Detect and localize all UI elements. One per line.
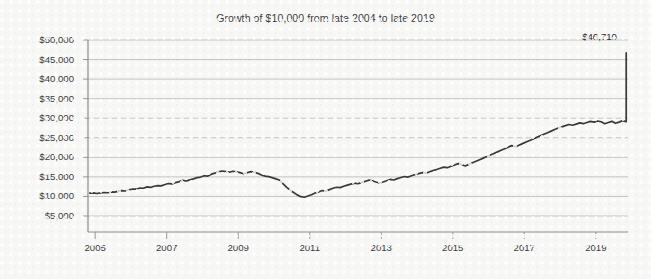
chart-container: Growth of $10,000 from late 2004 to late…	[0, 0, 651, 279]
x-axis-label: 2005	[75, 242, 115, 253]
data-series-line	[90, 53, 626, 197]
y-axis-label: $15,000	[12, 171, 74, 182]
y-axis-label: $35,000	[12, 93, 74, 104]
x-axis-label: 2009	[218, 242, 258, 253]
y-axis-label: $30,000	[12, 112, 74, 123]
x-axis-label: 2011	[290, 242, 330, 253]
y-axis-label: $50,000	[12, 34, 74, 45]
y-axis-label: $5,000	[12, 210, 74, 221]
y-axis-label: $20,000	[12, 151, 74, 162]
chart-plot-area	[0, 0, 651, 279]
x-axis-label: 2015	[433, 242, 473, 253]
y-axis-label: $40,000	[12, 73, 74, 84]
x-axis-label: 2017	[504, 242, 544, 253]
y-axis-label: $25,000	[12, 132, 74, 143]
y-axis-label: $10,000	[12, 190, 74, 201]
end-value-annotation: $46,710	[582, 31, 617, 42]
x-axis-label: 2013	[361, 242, 401, 253]
x-axis-label: 2007	[147, 242, 187, 253]
x-axis-label: 2019	[576, 242, 616, 253]
y-axis-label: $45,000	[12, 54, 74, 65]
